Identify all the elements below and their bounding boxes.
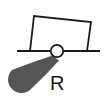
pivot-circle <box>51 45 63 57</box>
symbol-label: R <box>50 73 64 93</box>
